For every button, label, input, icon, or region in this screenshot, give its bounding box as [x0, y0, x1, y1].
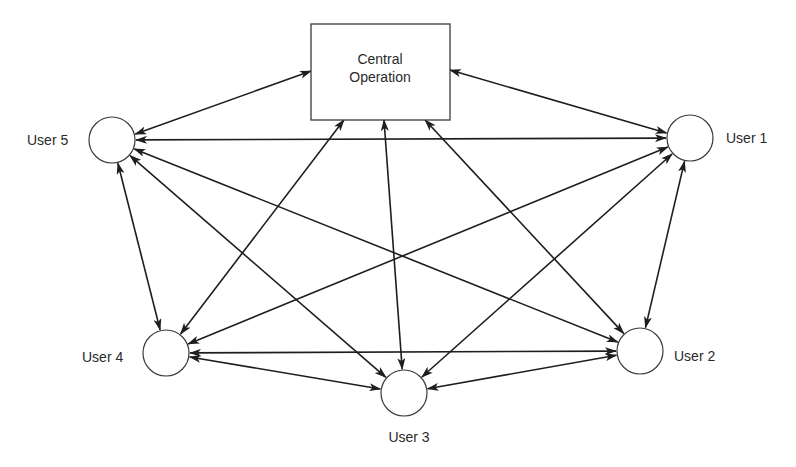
edge-central-user3: [384, 120, 402, 369]
central-operation-node: Central Operation: [311, 24, 450, 120]
user-4-circle: [143, 330, 189, 376]
edge-user5-user4: [118, 163, 160, 329]
user-3-node: User 3: [381, 370, 430, 445]
edge-user5-user2: [134, 149, 617, 342]
user-5-node: User 5: [27, 117, 135, 163]
edge-user1-user2: [646, 161, 685, 327]
user-1-label: User 1: [726, 130, 767, 146]
user-2-node: User 2: [617, 328, 715, 374]
user-4-node: User 4: [82, 330, 189, 376]
central-operation-label-line1: Central: [357, 51, 402, 67]
user-3-circle: [381, 370, 427, 416]
edge-user4-user2: [190, 351, 616, 353]
edge-central-user2: [425, 120, 624, 333]
edge-user5-user1: [136, 138, 666, 140]
user-2-label: User 2: [674, 348, 715, 364]
user-5-label: User 5: [27, 132, 68, 148]
central-operation-label-line2: Operation: [349, 69, 410, 85]
edge-user1-user4: [188, 147, 668, 344]
edge-central-user5: [135, 71, 311, 134]
edge-central-user1: [450, 70, 667, 133]
edge-user3-user2: [428, 355, 617, 389]
user-3-label: User 3: [388, 429, 429, 445]
user-1-node: User 1: [667, 115, 767, 161]
edge-user4-user3: [190, 357, 381, 389]
user-5-circle: [89, 117, 135, 163]
network-diagram: Central Operation User 1 User 2 User 3 U…: [0, 0, 796, 467]
edge-central-user4: [181, 120, 344, 334]
user-2-circle: [617, 328, 663, 374]
user-4-label: User 4: [82, 349, 123, 365]
user-1-circle: [667, 115, 713, 161]
